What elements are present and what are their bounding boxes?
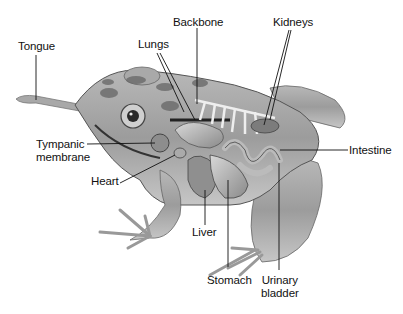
label-heart: Heart: [91, 175, 119, 188]
heart: [174, 148, 186, 158]
label-kidneys: Kidneys: [273, 16, 313, 29]
label-lungs: Lungs: [138, 38, 169, 51]
label-stomach: Stomach: [207, 274, 252, 287]
label-urinary-line2: bladder: [261, 287, 299, 300]
label-tongue: Tongue: [18, 40, 55, 53]
label-intestine: Intestine: [349, 144, 392, 157]
label-liver: Liver: [192, 226, 216, 239]
label-tympanic-line2: membrane: [36, 151, 90, 164]
label-tympanic-line1: Tympanic: [36, 138, 90, 151]
label-tympanic-membrane: Tympanic membrane: [36, 138, 90, 164]
label-backbone: Backbone: [173, 16, 223, 29]
label-urinary-bladder: Urinary bladder: [261, 274, 299, 300]
label-urinary-line1: Urinary: [261, 274, 299, 287]
